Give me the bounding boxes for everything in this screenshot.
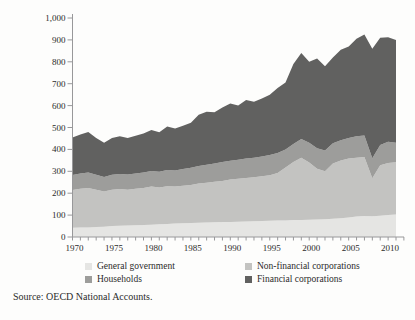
legend-swatch-general-government-icon bbox=[85, 263, 92, 270]
legend-item-non-financial-corporations: Non-financial corporations bbox=[245, 261, 405, 272]
chart-legend: General government Non-financial corpora… bbox=[85, 261, 405, 285]
figure: 01002003004005006007008009001,0001970197… bbox=[0, 0, 415, 320]
y-axis-tick-label: 200 bbox=[52, 188, 66, 198]
x-axis-tick-label: 1980 bbox=[144, 243, 163, 253]
y-axis-tick-label: 700 bbox=[52, 79, 66, 89]
x-axis-tick-label: 1990 bbox=[223, 243, 242, 253]
legend-item-general-government: General government bbox=[85, 261, 245, 272]
y-axis-tick-label: 900 bbox=[52, 35, 66, 45]
y-axis-tick-label: 600 bbox=[52, 101, 66, 111]
x-axis-tick-label: 1995 bbox=[263, 243, 282, 253]
y-axis-tick-label: 1,000 bbox=[45, 13, 66, 23]
source-note: Source: OECD National Accounts. bbox=[13, 291, 152, 302]
y-axis-tick-label: 300 bbox=[52, 166, 66, 176]
x-axis-tick-label: 1970 bbox=[66, 243, 85, 253]
legend-swatch-households-icon bbox=[85, 276, 92, 283]
y-axis-tick-label: 400 bbox=[52, 144, 66, 154]
legend-swatch-non-financial-corporations-icon bbox=[245, 263, 252, 270]
x-axis-tick-label: 2010 bbox=[381, 243, 400, 253]
x-axis-tick-label: 1985 bbox=[184, 243, 203, 253]
legend-label-households: Households bbox=[97, 274, 142, 285]
legend-swatch-financial-corporations-icon bbox=[245, 276, 252, 283]
y-axis-tick-label: 800 bbox=[52, 57, 66, 67]
x-axis-tick-label: 1975 bbox=[105, 243, 124, 253]
y-axis-tick-label: 500 bbox=[52, 123, 66, 133]
legend-label-financial-corporations: Financial corporations bbox=[257, 274, 342, 285]
x-axis-tick-label: 2000 bbox=[302, 243, 321, 253]
legend-item-financial-corporations: Financial corporations bbox=[245, 274, 405, 285]
legend-label-non-financial-corporations: Non-financial corporations bbox=[257, 261, 360, 272]
y-axis-tick-label: 0 bbox=[61, 232, 66, 242]
y-axis-tick-label: 100 bbox=[52, 210, 66, 220]
legend-item-households: Households bbox=[85, 274, 245, 285]
legend-label-general-government: General government bbox=[97, 261, 175, 272]
x-axis-tick-label: 2005 bbox=[342, 243, 361, 253]
